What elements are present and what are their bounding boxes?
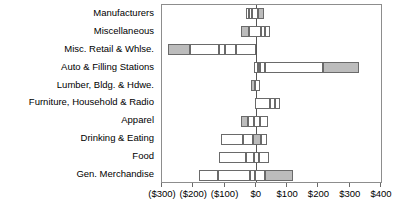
x-axis-tick [380,183,381,187]
category-label: Lumber, Bldg. & Hdwe. [57,80,154,90]
category-label: Manufacturers [93,8,154,18]
x-axis-tick-label: $200 [308,188,329,199]
x-axis-tick [255,183,256,187]
bar-row[interactable] [162,98,381,109]
bar-row[interactable] [162,62,381,73]
bar-segment[interactable] [199,170,218,181]
bar-row[interactable] [162,80,381,91]
bar-segment[interactable] [255,80,259,91]
bar-segment[interactable] [275,98,281,109]
x-axis-tick [317,183,318,187]
bar-row[interactable] [162,134,381,145]
bar-segment[interactable] [261,134,267,145]
bar-row[interactable] [162,44,381,55]
category-label: Gen. Merchandise [76,169,154,179]
bar-row[interactable] [162,116,381,127]
category-label: Apparel [121,115,154,125]
bar-segment[interactable] [253,134,261,145]
bar-segment[interactable] [225,44,237,55]
x-axis-tick-label: $0 [251,188,262,199]
bar-segment[interactable] [243,134,253,145]
bar-segment[interactable] [249,26,261,37]
bar-segment[interactable] [255,170,265,181]
bar-segment[interactable] [258,8,264,19]
plot-area [161,4,382,183]
bar-segment[interactable] [246,152,254,163]
bar-segment[interactable] [251,80,255,91]
x-axis-tick-label: $300 [339,188,360,199]
bar-segment[interactable] [241,116,248,127]
bar-segment[interactable] [265,170,293,181]
category-label: Misc. Retail & Whlse. [64,44,154,54]
x-axis-tick [161,183,162,187]
bar-segment[interactable] [255,98,271,109]
bar-row[interactable] [162,26,381,37]
bar-segment[interactable] [260,116,268,127]
x-axis-tick-label: $400 [370,188,391,199]
bar-segment[interactable] [265,26,270,37]
bar-segment[interactable] [221,134,244,145]
category-label: Food [132,151,154,161]
bar-segment[interactable] [218,170,249,181]
category-label: Drinking & Eating [81,133,154,143]
x-axis-tick [286,183,287,187]
category-label: Auto & Filling Stations [61,62,154,72]
x-axis-tick [224,183,225,187]
bar-segment[interactable] [219,152,247,163]
bar-row[interactable] [162,8,381,19]
bar-segment[interactable] [259,152,269,163]
category-label: Furniture, Household & Radio [29,97,154,107]
category-label: Miscellaneous [94,26,154,36]
x-axis-tick-label: ($300) [148,188,175,199]
x-axis-tick-label: ($100) [211,188,238,199]
bar-segment[interactable] [168,44,190,55]
floating-bar-chart: ManufacturersMiscellaneousMisc. Retail &… [0,0,396,214]
x-axis-tick-label: $100 [277,188,298,199]
x-axis-tick [192,183,193,187]
bar-segment[interactable] [190,44,219,55]
category-axis-labels: ManufacturersMiscellaneousMisc. Retail &… [0,0,158,183]
bar-segment[interactable] [241,26,249,37]
bar-row[interactable] [162,152,381,163]
bar-segment[interactable] [265,62,323,73]
x-axis-tick [349,183,350,187]
bar-row[interactable] [162,170,381,181]
bar-segment[interactable] [323,62,359,73]
x-axis-labels: ($300)($200)($100)$0$100$200$300$400 [0,188,396,202]
x-axis-tick-label: ($200) [180,188,207,199]
bar-segment[interactable] [236,44,256,55]
